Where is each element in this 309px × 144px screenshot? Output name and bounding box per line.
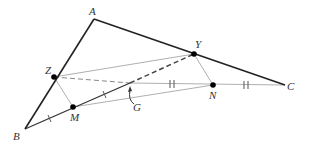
dashed-ZG [54, 77, 130, 83]
point-Z [51, 74, 57, 80]
label-G: G [133, 101, 141, 113]
label-Y: Y [195, 38, 203, 50]
segment-MN [73, 85, 213, 107]
dashed-GY [130, 54, 194, 83]
label-Z: Z [45, 64, 52, 76]
label-B: B [13, 130, 20, 142]
point-M [70, 104, 76, 110]
segment-GC [130, 83, 285, 85]
segment-ZY [54, 54, 194, 77]
point-Y [191, 51, 197, 57]
triangle-diagram: A B C Y Z M N G [0, 0, 309, 144]
label-A: A [88, 5, 96, 17]
segment-ZM [54, 77, 73, 107]
point-N [210, 82, 216, 88]
diagram-canvas: A B C Y Z M N G [0, 0, 309, 144]
label-N: N [208, 89, 217, 101]
label-M: M [69, 111, 80, 123]
side-AB [25, 19, 94, 129]
label-C: C [287, 80, 295, 92]
arrowhead-icon [128, 86, 132, 92]
side-AC [94, 19, 285, 85]
